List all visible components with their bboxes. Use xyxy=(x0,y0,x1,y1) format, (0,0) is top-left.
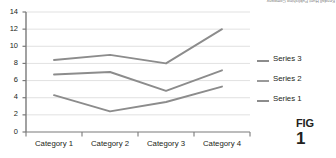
legend-swatch-series-3 xyxy=(257,60,269,62)
figure-caption: FIG 1 xyxy=(296,118,336,147)
y-tick-label: 10 xyxy=(2,42,18,50)
chart-legend: Series 3 Series 2 Series 1 xyxy=(257,52,313,112)
x-tick-label: Category 1 xyxy=(26,139,82,148)
y-tick-label: 2 xyxy=(2,110,18,118)
series-lines xyxy=(54,29,222,111)
y-tick-label: 8 xyxy=(2,59,18,67)
legend-swatch-series-1 xyxy=(257,100,269,102)
chart-plot-svg xyxy=(0,0,255,158)
y-tick-label: 14 xyxy=(2,8,18,16)
y-tick-label: 12 xyxy=(2,25,18,33)
x-axis-ticks xyxy=(26,132,250,137)
series-line-series-1 xyxy=(54,87,222,112)
x-tick-label: Category 3 xyxy=(138,139,194,148)
legend-label-series-1: Series 1 xyxy=(273,94,302,104)
legend-label-series-3: Series 3 xyxy=(273,54,302,64)
legend-swatch-series-2 xyxy=(257,80,269,82)
figure-caption-label: FIG xyxy=(296,118,336,129)
legend-item-series-3: Series 3 xyxy=(257,52,313,72)
gridlines xyxy=(26,12,250,115)
y-tick-label: 6 xyxy=(2,76,18,84)
x-tick-label: Category 2 xyxy=(82,139,138,148)
figure-caption-number: 1 xyxy=(296,130,336,147)
legend-item-series-2: Series 2 xyxy=(257,72,313,92)
publisher-credit-text: Kendall Hunt Publishing Company xyxy=(267,0,335,4)
y-tick-label: 0 xyxy=(2,128,18,136)
x-tick-label: Category 4 xyxy=(194,139,250,148)
line-chart: 02468101214 Category 1Category 2Category… xyxy=(0,0,255,158)
legend-item-series-1: Series 1 xyxy=(257,92,313,112)
y-tick-label: 4 xyxy=(2,93,18,101)
legend-label-series-2: Series 2 xyxy=(273,74,302,84)
